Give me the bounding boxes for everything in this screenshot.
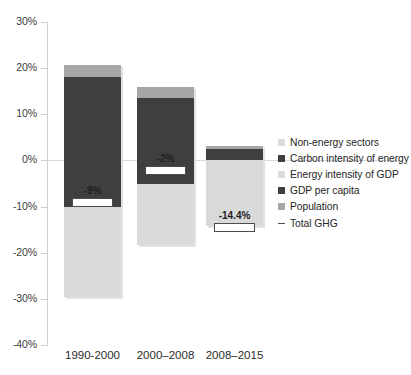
legend-item[interactable]: Non-energy sectors	[278, 134, 408, 150]
legend-item[interactable]: Population	[278, 199, 408, 215]
plot-area: -9%-2%-14.4%	[47, 22, 270, 345]
x-axis-label: 2008–2015	[194, 349, 275, 361]
bar-group[interactable]: -14.4%	[206, 22, 263, 345]
bar-segment[interactable]	[137, 184, 194, 245]
y-axis-tick-label: 20%	[0, 61, 37, 73]
ghg-decomposition-chart: 30%20%10%0%-10%-20%-30%-40% -9%-2%-14.4%…	[0, 0, 411, 375]
total-ghg-label: -14.4%	[206, 210, 263, 221]
y-axis-tick	[41, 345, 47, 346]
legend-swatch-icon	[278, 171, 285, 178]
total-ghg-marker	[72, 198, 113, 207]
y-axis-tick-label: 0%	[0, 153, 37, 165]
y-axis-tick-label: -20%	[0, 246, 37, 258]
legend-swatch-icon	[278, 155, 285, 162]
legend-item[interactable]: GDP per capita	[278, 183, 408, 199]
legend-line-marker-icon	[278, 223, 285, 224]
x-axis-label: 1990-2000	[52, 349, 133, 361]
bar-segment[interactable]	[64, 77, 121, 160]
total-ghg-label: -9%	[64, 185, 121, 196]
legend-label: GDP per capita	[290, 185, 360, 196]
total-ghg-marker	[214, 223, 255, 232]
bar-segment[interactable]	[64, 207, 121, 297]
legend-swatch-icon	[278, 187, 285, 194]
y-axis-tick-label: -10%	[0, 200, 37, 212]
legend-label: Energy intensity of GDP	[290, 169, 399, 180]
legend: Non-energy sectorsCarbon intensity of en…	[278, 134, 408, 231]
total-ghg-label: -2%	[137, 153, 194, 164]
legend-label: Non-energy sectors	[290, 137, 379, 148]
bar-segment[interactable]	[206, 149, 263, 161]
legend-label: Total GHG	[290, 218, 338, 229]
y-axis-tick-label: -30%	[0, 292, 37, 304]
bar-segment[interactable]	[64, 65, 121, 77]
bar-segment[interactable]	[137, 87, 194, 99]
y-axis-tick-label: 10%	[0, 107, 37, 119]
legend-label: Population	[290, 201, 338, 212]
y-axis-tick-label: 30%	[0, 15, 37, 27]
bar-segment[interactable]	[137, 98, 194, 160]
legend-item[interactable]: Energy intensity of GDP	[278, 166, 408, 182]
legend-swatch-icon	[278, 139, 285, 146]
legend-item[interactable]: Carbon intensity of energy	[278, 150, 408, 166]
bar-group[interactable]: -9%	[64, 22, 121, 345]
legend-label: Carbon intensity of energy	[290, 153, 409, 164]
bar-segment[interactable]	[206, 146, 263, 149]
legend-item[interactable]: Total GHG	[278, 215, 408, 231]
legend-swatch-icon	[278, 203, 285, 210]
y-axis-tick-label: -40%	[0, 338, 37, 350]
bar-group[interactable]: -2%	[137, 22, 194, 345]
total-ghg-marker	[145, 166, 186, 175]
